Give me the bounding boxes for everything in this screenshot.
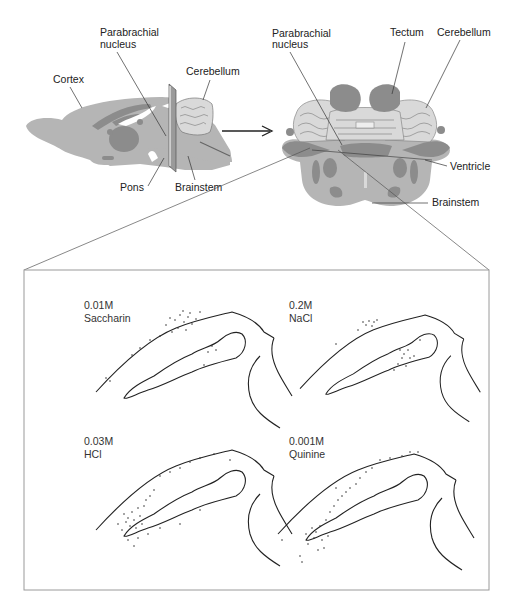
panel-tastant: Saccharin xyxy=(84,312,131,324)
figure-canvas: Parabrachial nucleus Cortex Cerebellum P… xyxy=(0,0,513,607)
label-coronal-parabrachial-line2: nucleus xyxy=(272,38,308,50)
panel-tastant: HCl xyxy=(84,448,102,460)
arrow-icon xyxy=(222,126,272,136)
sagittal-brain xyxy=(26,84,232,172)
panel-concentration: 0.001M xyxy=(289,435,324,447)
label-cerebellum: Cerebellum xyxy=(186,65,240,77)
label-cortex: Cortex xyxy=(53,73,85,85)
label-coronal-brainstem: Brainstem xyxy=(432,196,480,208)
panel-tastant: Quinine xyxy=(289,448,325,460)
panel-tastant: NaCl xyxy=(289,312,312,324)
coronal-brain xyxy=(282,84,450,206)
label-tectum: Tectum xyxy=(390,26,424,38)
label-pons: Pons xyxy=(120,181,144,193)
label-ventricle: Ventricle xyxy=(450,160,490,172)
label-parabrachial-line2: nucleus xyxy=(100,38,136,50)
panel-concentration: 0.2M xyxy=(289,299,312,311)
label-coronal-cerebellum: Cerebellum xyxy=(437,26,491,38)
label-parabrachial-line1: Parabrachial xyxy=(100,26,159,38)
label-brainstem: Brainstem xyxy=(175,181,223,193)
panel-concentration: 0.03M xyxy=(84,435,113,447)
panel-concentration: 0.01M xyxy=(84,299,113,311)
